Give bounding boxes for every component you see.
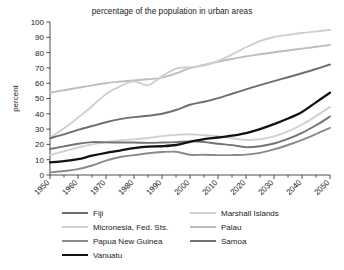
y-tick-label: 20 — [35, 140, 44, 149]
series-line-vanuatu — [50, 93, 330, 163]
legend-swatch — [62, 254, 88, 256]
legend-column-right: Marshall IslandsPalauSamoa — [190, 206, 279, 248]
x-tick-label: 2040 — [284, 178, 303, 197]
y-tick-label: 10 — [35, 156, 44, 165]
legend-item[interactable]: Samoa — [190, 234, 279, 248]
x-tick-label: 1950 — [32, 178, 51, 197]
x-tick-label: 1970 — [88, 178, 107, 197]
legend-item[interactable]: Micronesia, Fed. Sts. — [62, 220, 168, 234]
x-tick-label: 2020 — [228, 178, 247, 197]
series-line-marshall-islands — [50, 30, 330, 138]
y-tick-label: 50 — [35, 94, 44, 103]
series-line-fiji — [50, 65, 330, 139]
x-tick-label: 2010 — [200, 178, 219, 197]
legend-item[interactable]: Palau — [190, 220, 279, 234]
legend-item[interactable]: Fiji — [62, 206, 168, 220]
y-tick-label: 100 — [31, 18, 45, 27]
y-axis: 0102030405060708090100 — [31, 18, 50, 180]
legend-item[interactable]: Vanuatu — [62, 248, 168, 262]
plot-area: 0102030405060708090100 19501960197019801… — [0, 0, 344, 200]
legend-label: Palau — [221, 223, 241, 232]
x-tick-label: 2030 — [256, 178, 275, 197]
data-series-group — [50, 30, 330, 172]
legend-label: Papua New Guinea — [93, 237, 162, 246]
y-tick-label: 30 — [35, 125, 44, 134]
legend-label: Samoa — [221, 237, 246, 246]
y-tick-label: 60 — [35, 79, 44, 88]
x-tick-label: 2050 — [312, 178, 331, 197]
legend-swatch — [62, 240, 88, 242]
legend-label: Marshall Islands — [221, 209, 279, 218]
legend-swatch — [62, 212, 88, 214]
legend-column-left: FijiMicronesia, Fed. Sts.Papua New Guine… — [62, 206, 168, 262]
chart-container: percentage of the population in urban ar… — [0, 0, 344, 270]
legend-swatch — [190, 226, 216, 228]
chart-legend: FijiMicronesia, Fed. Sts.Papua New Guine… — [62, 206, 332, 266]
legend-item[interactable]: Papua New Guinea — [62, 234, 168, 248]
x-tick-label: 1990 — [144, 178, 163, 197]
legend-swatch — [190, 212, 216, 214]
series-line-palau — [50, 45, 330, 93]
y-tick-label: 80 — [35, 49, 44, 58]
y-tick-label: 40 — [35, 110, 44, 119]
y-tick-label: 70 — [35, 64, 44, 73]
y-tick-label: 90 — [35, 33, 44, 42]
legend-label: Vanuatu — [93, 251, 122, 260]
legend-item[interactable]: Marshall Islands — [190, 206, 279, 220]
legend-swatch — [62, 226, 88, 228]
x-axis: 1950196019701980199020002010202020302040… — [32, 175, 331, 197]
x-tick-label: 2000 — [172, 178, 191, 197]
legend-label: Fiji — [93, 209, 103, 218]
x-tick-label: 1960 — [60, 178, 79, 197]
x-tick-label: 1980 — [116, 178, 135, 197]
legend-swatch — [190, 240, 216, 242]
series-line-micronesia-fed-sts — [50, 107, 330, 155]
y-axis-title: percent — [11, 84, 20, 111]
legend-label: Micronesia, Fed. Sts. — [93, 223, 168, 232]
